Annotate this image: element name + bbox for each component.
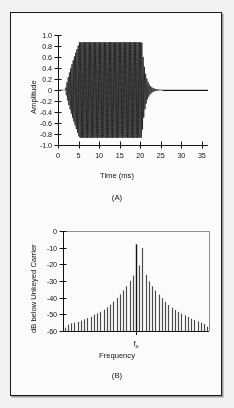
panel-b-ytick-3: -30: [11, 277, 57, 286]
panel-a-ytick-0: -1.0: [11, 141, 52, 150]
panel-b-caption: (B): [11, 371, 223, 380]
panel-b-spectrum: dB below Unkeyed Carrier fo Frequency (B…: [11, 205, 223, 397]
panel-a-xtick-7: 35: [198, 151, 206, 160]
panel-b-ytick-6: -60: [11, 327, 57, 336]
panel-a-xtick-5: 25: [157, 151, 165, 160]
panel-a-xtick-1: 5: [77, 151, 81, 160]
panel-a-ytick-4: -0.2: [11, 97, 52, 106]
panel-a-ytick-2: -0.6: [11, 119, 52, 128]
panel-b-ytick-1: -10: [11, 244, 57, 253]
panel-b-y-axis-title: dB below Unkeyed Carrier: [29, 244, 38, 333]
panel-a-ytick-7: 0.4: [11, 64, 52, 73]
panel-b-ytick-2: -20: [11, 260, 57, 269]
f0-subscript: o: [136, 343, 139, 349]
panel-a-ytick-10: 1.0: [11, 31, 52, 40]
panel-a-xtick-6: 30: [177, 151, 185, 160]
panel-a-xtick-2: 10: [95, 151, 103, 160]
panel-a-xtick-0: 0: [56, 151, 60, 160]
panel-a-xtick-4: 20: [136, 151, 144, 160]
panel-b-ytick-4: -40: [11, 294, 57, 303]
panel-a-ytick-1: -0.8: [11, 130, 52, 139]
panel-a-ytick-9: 0.8: [11, 42, 52, 51]
panel-b-x-axis-title: Frequency: [11, 351, 223, 360]
panel-a-ytick-6: 0.2: [11, 75, 52, 84]
panel-a-ytick-8: 0.6: [11, 53, 52, 62]
figure-frame: Amplitude Time (ms) (A) -1.0-0.8-0.6-0.4…: [10, 12, 222, 396]
panel-a-waveform: Amplitude Time (ms) (A) -1.0-0.8-0.6-0.4…: [11, 13, 223, 205]
panel-a-ytick-3: -0.4: [11, 108, 52, 117]
panel-b-ytick-0: 0: [11, 227, 57, 236]
panel-b-ytick-5: -50: [11, 310, 57, 319]
panel-a-ytick-5: 0: [11, 86, 52, 95]
panel-a-caption: (A): [11, 193, 223, 202]
panel-a-x-axis-title: Time (ms): [11, 171, 223, 180]
panel-a-xtick-3: 15: [116, 151, 124, 160]
panel-b-center-frequency-label: fo: [133, 339, 138, 349]
